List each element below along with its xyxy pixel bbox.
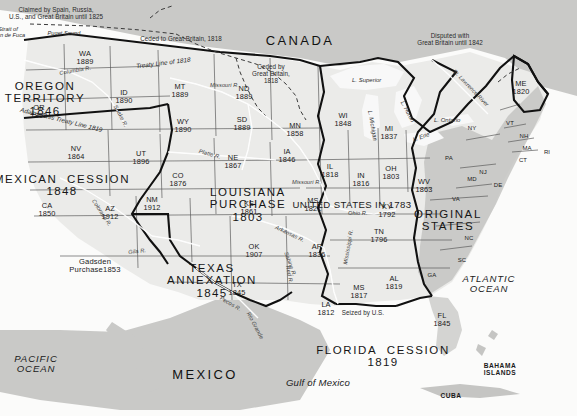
state-abbr: GA — [428, 272, 437, 278]
state-year: 1812 — [318, 309, 335, 317]
state-label-me-1820: ME1820 — [513, 80, 530, 96]
state-label-tn-1796: TN1796 — [371, 228, 388, 244]
ocean-label-pacific-ocean: PACIFIC OCEAN — [14, 354, 57, 375]
state-year: 1796 — [371, 236, 388, 244]
island-label-cuba: CUBA — [440, 392, 461, 399]
state-label-nv-1864: NV1864 — [68, 145, 85, 161]
state-abbr: MD — [467, 176, 477, 182]
state-abbr: NY — [468, 125, 477, 131]
state-label-tx-1845: TX1845 — [229, 281, 246, 297]
state-label-ks-1861: KS1861 — [241, 200, 258, 216]
state-abbr: PA — [445, 155, 453, 161]
state-label-nm-1912: NM1912 — [144, 196, 161, 212]
state-label-wv-1863: WV1863 — [416, 178, 433, 194]
state-label-al-1819: AL1819 — [386, 275, 403, 291]
state-label-in-1816: IN1816 — [353, 172, 370, 188]
state-year: 1867 — [225, 162, 242, 170]
state-label-md: MD — [467, 176, 477, 182]
state-year: 1803 — [383, 173, 400, 181]
state-label-co-1876: CO1876 — [170, 172, 187, 188]
state-year: 1850 — [39, 210, 56, 218]
state-year: 1818 — [322, 171, 339, 179]
state-year: 1792 — [379, 211, 396, 219]
state-label-ne-1867: NE1867 — [225, 154, 242, 170]
state-label-va: VA — [452, 196, 460, 202]
state-label-vt: VT — [506, 120, 514, 126]
state-year: 1821 — [305, 205, 322, 213]
state-label-fl-1845: FL1845 — [434, 312, 451, 328]
state-abbr: SC — [458, 257, 467, 263]
region-year: 1819 — [316, 356, 450, 368]
region-label-original-states: ORIGINAL STATES — [414, 208, 482, 233]
state-abbr: VT — [506, 120, 514, 126]
region-year: 1848 — [0, 185, 130, 197]
state-label-ma: MA — [522, 145, 531, 151]
region-name: MEXICAN CESSION — [0, 173, 130, 185]
river-label-ohio-r-: Ohio R. — [348, 210, 368, 216]
state-label-id-1890: ID1890 — [116, 89, 133, 105]
state-year: 1846 — [279, 156, 296, 164]
state-label-ca-1850: CA1850 — [39, 202, 56, 218]
state-label-oh-1803: OH1803 — [383, 165, 400, 181]
river-label-missouri-r-: Missouri R. — [292, 179, 321, 185]
region-year: 1853 — [103, 265, 121, 274]
state-abbr: CT — [519, 157, 527, 163]
country-label-mexico: MEXICO — [172, 368, 238, 382]
state-year: 1845 — [229, 289, 246, 297]
state-year: 1848 — [335, 120, 352, 128]
state-abbr: NC — [465, 235, 474, 241]
state-label-ia-1846: IA1846 — [279, 148, 296, 164]
state-label-ms-1821: MS1821 — [305, 197, 322, 213]
island-label-bahama-islands: BAHAMA ISLANDS — [484, 362, 516, 376]
state-year: 1896 — [133, 158, 150, 166]
state-label-nj: NJ — [479, 169, 487, 175]
state-label-mt-1889: MT1889 — [172, 83, 189, 99]
state-year: 1861 — [241, 208, 258, 216]
state-label-mi-1837: MI1837 — [381, 125, 398, 141]
annotation-strait-of-juan-de-fuca: Strait of Juan de Fuca — [0, 26, 25, 38]
lake-label-l-ontario: L. Ontario — [434, 117, 460, 123]
state-year: 1864 — [68, 153, 85, 161]
state-label-ny: NY — [468, 125, 477, 131]
state-abbr: RI — [544, 149, 550, 155]
state-year: 1890 — [175, 126, 192, 134]
ocean-label-atlantic-ocean: ATLANTIC OCEAN — [463, 274, 516, 295]
state-label-wy-1890: WY1890 — [175, 118, 192, 134]
state-label-ct: CT — [519, 157, 527, 163]
region-label-gadsden-purchase: Gadsden Purchase1853 — [69, 258, 120, 274]
region-name: OREGON TERRITORY — [5, 80, 85, 104]
state-label-ri: RI — [544, 149, 550, 155]
state-label-wa-1889: WA1889 — [77, 50, 94, 66]
lake-label-l-superior: L. Superior — [352, 77, 381, 83]
historical-map-canvas: CANADAMEXICOPACIFIC OCEANATLANTIC OCEANG… — [0, 0, 577, 416]
state-label-nh: NH — [520, 133, 529, 139]
state-year: 1912 — [144, 204, 161, 212]
state-year: 1889 — [234, 124, 251, 132]
state-year: 1819 — [386, 283, 403, 291]
state-year: 1889 — [236, 93, 253, 101]
annotation-ceded-to-great-britain-1818: Ceded to Great Britain, 1818 — [140, 36, 222, 43]
state-label-de: DE — [494, 182, 503, 188]
state-abbr: DE — [494, 182, 503, 188]
region-name: FLORIDA CESSION — [316, 344, 450, 356]
region-label-florida-cession: FLORIDA CESSION1819 — [316, 344, 450, 369]
state-year: 1816 — [353, 180, 370, 188]
state-year: 1889 — [172, 91, 189, 99]
river-label-missouri-r-: Missouri R. — [210, 82, 239, 88]
state-label-mn-1858: MN1858 — [287, 122, 304, 138]
state-year: 1907 — [246, 251, 263, 259]
state-label-ut-1896: UT1896 — [133, 150, 150, 166]
state-label-sd-1889: SD1889 — [234, 116, 251, 132]
state-year: 1845 — [434, 320, 451, 328]
state-label-il-1818: IL1818 — [322, 163, 339, 179]
annotation-puget-sound: Puget Sound — [48, 30, 81, 36]
state-label-la-1812: LA1812 — [318, 301, 335, 317]
state-label-nc: NC — [465, 235, 474, 241]
region-label-mexican-cession: MEXICAN CESSION1848 — [0, 173, 130, 198]
state-year: 1836 — [309, 251, 326, 259]
state-label-ga: GA — [428, 272, 437, 278]
annotation-seized-by-u-s-: Seized by U.S. — [342, 310, 384, 317]
state-year: 1837 — [381, 133, 398, 141]
state-abbr: NH — [520, 133, 529, 139]
state-label-ar-1836: AR1836 — [309, 243, 326, 259]
